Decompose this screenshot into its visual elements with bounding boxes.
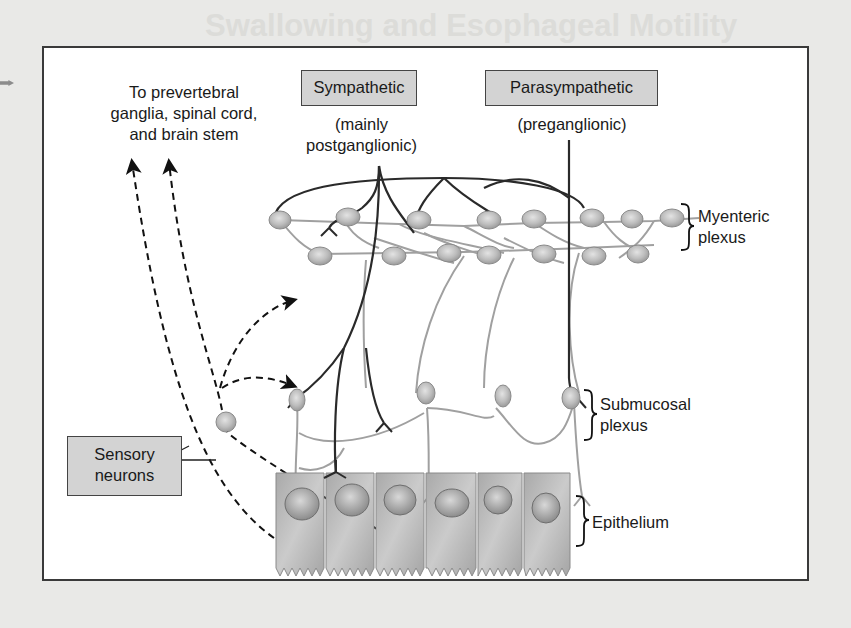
destination-line-2: ganglia, spinal cord, bbox=[84, 103, 284, 124]
sensory-neuron-cell bbox=[216, 412, 236, 432]
sensory-line-1: Sensory bbox=[68, 444, 181, 465]
autonomic-terminals bbox=[288, 228, 586, 486]
destination-line-3: and brain stem bbox=[84, 124, 284, 145]
parasympathetic-subline-1: (preganglionic) bbox=[492, 114, 652, 135]
background-heading: Swallowing and Esophageal Motility bbox=[205, 8, 737, 44]
submucosal-plexus-label: Submucosal plexus bbox=[600, 394, 691, 436]
parasympathetic-sublabel: (preganglionic) bbox=[492, 114, 652, 135]
myenteric-line-1: Myenteric bbox=[698, 206, 770, 227]
epithelium-label: Epithelium bbox=[592, 512, 669, 533]
sensory-line-2: neurons bbox=[68, 465, 181, 486]
epithelium-cells bbox=[276, 473, 570, 576]
destination-label: To prevertebral ganglia, spinal cord, an… bbox=[84, 82, 284, 145]
submucosal-line-2: plexus bbox=[600, 415, 691, 436]
submucosal-line-1: Submucosal bbox=[600, 394, 691, 415]
epithelium-line-1: Epithelium bbox=[592, 512, 669, 533]
enteric-nervous-system-figure: To prevertebral ganglia, spinal cord, an… bbox=[42, 46, 809, 581]
sympathetic-subline-1: (mainly bbox=[294, 114, 429, 135]
myenteric-plexus-label: Myenteric plexus bbox=[698, 206, 770, 248]
parasympathetic-label: Parasympathetic bbox=[510, 78, 633, 96]
myenteric-line-2: plexus bbox=[698, 227, 770, 248]
sympathetic-subline-2: postganglionic) bbox=[294, 135, 429, 156]
destination-line-1: To prevertebral bbox=[84, 82, 284, 103]
sensory-neurons-label-box: Sensory neurons bbox=[67, 436, 182, 496]
parasympathetic-label-box: Parasympathetic bbox=[485, 70, 658, 106]
submucosal-neurons bbox=[289, 382, 580, 411]
sympathetic-label: Sympathetic bbox=[314, 78, 405, 96]
sympathetic-label-box: Sympathetic bbox=[301, 70, 417, 106]
page-arrow-icon bbox=[0, 80, 14, 86]
sympathetic-sublabel: (mainly postganglionic) bbox=[294, 114, 429, 156]
